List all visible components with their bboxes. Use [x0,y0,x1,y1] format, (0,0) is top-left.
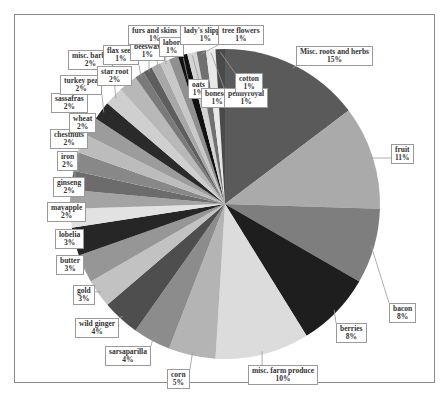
data-label: iron2% [57,151,78,171]
data-label-percent: 2% [51,212,82,220]
data-label: tree flowers1% [218,25,264,45]
data-label: wild ginger4% [75,318,119,338]
data-label-percent: 2% [64,85,98,93]
data-label-percent: 1% [134,51,161,59]
data-label-percent: 2% [57,187,81,195]
data-label: gold3% [73,285,95,305]
data-label-percent: 2% [61,161,74,169]
data-label: bacon8% [389,303,416,323]
data-label: lobelia3% [55,229,84,249]
data-label-percent: 3% [77,295,91,303]
data-label-percent: 1% [222,35,260,43]
data-label: mayapple2% [47,202,86,222]
data-label: berries8% [336,323,367,343]
data-label-percent: 15% [300,56,369,64]
data-label: fruit11% [391,144,414,164]
data-label-percent: 2% [55,103,84,111]
data-label: sassafras2% [51,93,88,113]
data-label: star root2% [97,66,132,86]
data-label-percent: 5% [171,379,186,387]
data-label: misc. farm produce10% [248,365,318,385]
data-label: sarsaparilla4% [105,346,151,366]
data-label-percent: 2% [101,76,128,84]
data-label-percent: 2% [73,123,92,131]
leader-line [371,246,389,303]
data-label-percent: 3% [59,239,80,247]
data-label-percent: 4% [109,356,147,364]
data-label: ginseng2% [53,177,85,197]
data-label: butter3% [56,255,84,275]
data-label: wheat2% [69,113,96,133]
data-label-percent: 2% [54,139,84,147]
data-label-percent: 1% [239,83,259,91]
data-label-percent: 1% [228,98,264,106]
data-label-percent: 1% [163,47,180,55]
data-label-percent: 3% [60,265,80,273]
data-label-percent: 10% [252,375,314,383]
data-label-percent: 8% [393,313,412,321]
data-label: Misc. roots and herbs15% [296,46,373,66]
data-label-percent: 8% [340,333,363,341]
data-label-percent: 4% [79,328,115,336]
data-label: cotton1% [235,73,263,93]
data-label: corn5% [167,369,190,389]
data-label-percent: 11% [395,154,410,162]
